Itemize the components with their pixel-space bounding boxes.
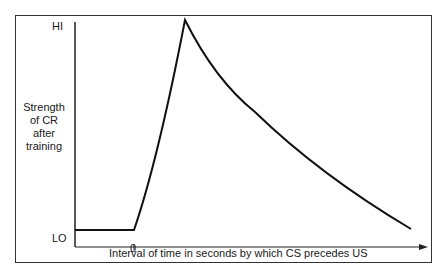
y-axis-label: Strength of CR after training — [20, 101, 68, 153]
cr-strength-curve — [75, 20, 411, 230]
ylabel-line: of CR — [20, 114, 68, 127]
x-axis-label: Interval of time in seconds by which CS … — [109, 247, 368, 260]
y-tick-lo: LO — [52, 232, 67, 245]
ylabel-line: training — [20, 140, 68, 153]
y-tick-hi: HI — [52, 20, 63, 33]
x-axis-arrow-icon — [419, 244, 428, 250]
ylabel-line: after — [20, 127, 68, 140]
ylabel-line: Strength — [20, 101, 68, 114]
